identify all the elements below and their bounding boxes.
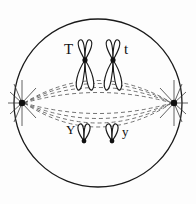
chromatid-arm-short xyxy=(106,124,112,141)
cell-diagram: T t Y y xyxy=(0,0,196,204)
spindle-fiber xyxy=(24,88,172,104)
chromatid-arm-short xyxy=(112,124,118,141)
spindle-fiber xyxy=(24,103,172,119)
centromere xyxy=(110,139,115,144)
allele-label-Y: Y xyxy=(66,123,75,136)
spindle-fiber xyxy=(24,103,172,123)
chromatid-arm-long xyxy=(113,60,122,90)
chromosome-Y xyxy=(78,124,90,143)
chromosome-t xyxy=(104,40,122,90)
chromatid-arm-long xyxy=(85,60,94,90)
spindle-fiber xyxy=(24,93,172,104)
right-centrosome xyxy=(171,100,177,106)
spindle-apparatus xyxy=(24,81,172,128)
centromere xyxy=(110,57,115,62)
chromatid-arm-short xyxy=(85,40,92,60)
allele-label-t: t xyxy=(124,42,128,57)
spindle-fiber xyxy=(24,84,172,104)
allele-label-T: T xyxy=(64,42,73,57)
centromere xyxy=(82,57,87,62)
chromatid-arm-long xyxy=(76,60,85,90)
allele-label-y: y xyxy=(122,125,129,138)
chromatid-arm-short xyxy=(113,40,120,60)
left-centrosome xyxy=(19,100,25,106)
chromatid-arm-short xyxy=(78,40,85,60)
centromere xyxy=(82,139,87,144)
cell-membrane xyxy=(14,19,182,187)
chromosome-y xyxy=(106,124,118,143)
chromatid-arm-short xyxy=(78,124,84,141)
chromatid-arm-short xyxy=(106,40,113,60)
spindle-fiber xyxy=(24,103,172,114)
chromatid-arm-long xyxy=(104,60,113,90)
diagram-canvas xyxy=(0,0,196,204)
chromosome-T xyxy=(76,40,94,90)
chromatid-arm-short xyxy=(84,124,90,141)
